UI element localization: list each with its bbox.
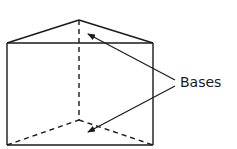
bases-label: Bases <box>180 74 221 90</box>
hidden-edges <box>7 20 153 145</box>
arrow-to-bottom-base <box>88 86 175 132</box>
arrow-to-top-base <box>88 34 175 80</box>
front-face <box>7 43 153 145</box>
arrows <box>88 34 175 132</box>
top-base <box>7 20 153 43</box>
